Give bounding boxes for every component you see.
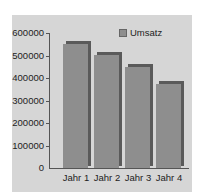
y-tick — [46, 56, 49, 57]
y-tick — [46, 146, 49, 147]
x-axis — [49, 168, 189, 169]
x-tick-label: Jahr 1 — [60, 172, 92, 183]
y-tick-label: 300000 — [4, 95, 44, 106]
legend-label: Umsatz — [130, 27, 162, 38]
y-tick-label: 200000 — [4, 117, 44, 128]
legend-swatch-icon — [119, 29, 127, 37]
x-tick-label: Jahr 4 — [153, 172, 185, 183]
y-tick-label: 0 — [4, 162, 44, 173]
x-tick-label: Jahr 2 — [91, 172, 123, 183]
y-tick-label: 500000 — [4, 50, 44, 61]
y-tick — [46, 78, 49, 79]
y-tick-label: 600000 — [4, 27, 44, 38]
y-tick — [46, 33, 49, 34]
x-tick-label: Jahr 3 — [122, 172, 154, 183]
y-tick — [46, 101, 49, 102]
y-tick-label: 400000 — [4, 72, 44, 83]
legend: Umsatz — [119, 27, 162, 38]
y-tick — [46, 123, 49, 124]
y-axis — [49, 33, 50, 169]
y-tick-label: 100000 — [4, 140, 44, 151]
